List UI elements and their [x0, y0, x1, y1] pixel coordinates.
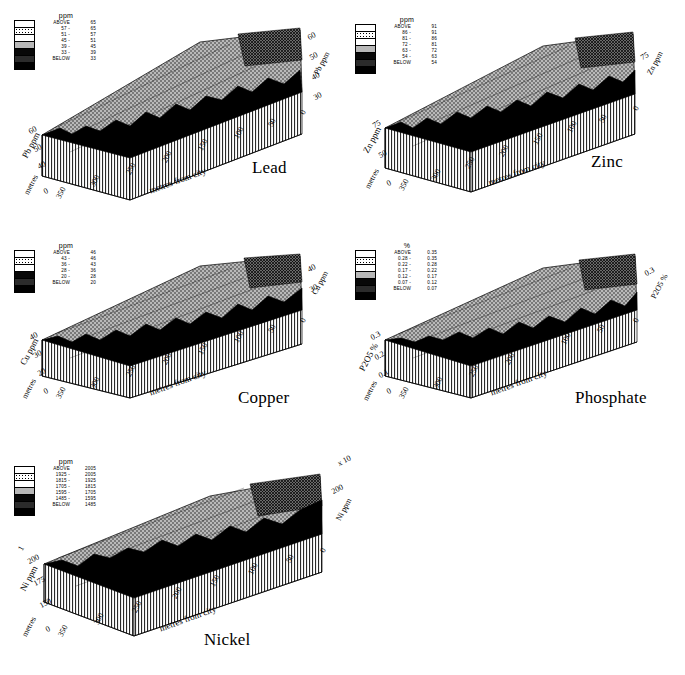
- surface-plot-zinc: [343, 0, 685, 230]
- surface-plot-lead: [0, 0, 343, 230]
- surface-plot-copper: [0, 230, 343, 430]
- panel-title-lead: Lead: [252, 158, 287, 178]
- panel-title-nickel: Nickel: [204, 630, 251, 650]
- panel-zinc: ppm ABOVE 91 86 - 91 81 - 86: [343, 0, 685, 230]
- panel-nickel: ppm ABOVE 2005 1925 - 2005 1815 -: [0, 430, 400, 675]
- panel-title-phosphate: Phosphate: [575, 388, 647, 408]
- panel-lead: ppm ABOVE 65 57 - 65 51 - 57: [0, 0, 343, 230]
- panel-title-zinc: Zinc: [591, 152, 623, 172]
- panel-copper: ppm ABOVE 46 43 - 46 36 - 43: [0, 230, 343, 430]
- figure-soil-contaminants: ppm ABOVE 65 57 - 65 51 - 57: [0, 0, 685, 675]
- panel-title-copper: Copper: [238, 388, 289, 408]
- panel-phosphate: % ABOVE 0.35 0.28 - 0.35 0.22 -: [343, 230, 685, 430]
